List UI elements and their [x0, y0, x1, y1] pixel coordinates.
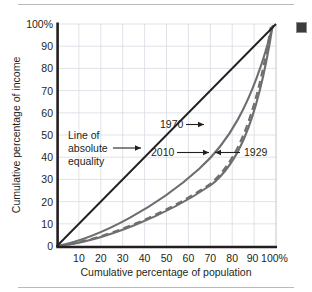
x-tick-60: 60 [183, 252, 195, 264]
y-tick-100: 100% [26, 18, 53, 30]
y-tick-80: 80 [41, 62, 53, 74]
annot-equality-line-3: equality [68, 155, 105, 167]
x-tick-20: 20 [95, 252, 107, 264]
x-tick-90: 90 [247, 252, 259, 264]
y-axis-title: Cumulative percentage of income [10, 57, 22, 214]
x-tick-80: 80 [226, 252, 238, 264]
x-tick-50: 50 [161, 252, 173, 264]
x-axis-title: Cumulative percentage of population [80, 266, 251, 278]
x-tick-100: 100% [261, 252, 288, 264]
y-tick-50: 50 [41, 129, 53, 141]
x-tick-40: 40 [139, 252, 151, 264]
chart-canvas: 100% 90 80 70 60 50 40 30 20 10 0 10 20 … [0, 0, 312, 292]
y-tick-30: 30 [41, 173, 53, 185]
y-tick-40: 40 [41, 151, 53, 163]
y-tick-20: 20 [41, 196, 53, 208]
y-axis-tick-labels: 100% 90 80 70 60 50 40 30 20 10 0 [26, 18, 53, 252]
y-tick-0: 0 [47, 240, 53, 252]
annot-1929-label: 1929 [244, 146, 268, 158]
annot-equality-line-1: Line of [68, 129, 100, 141]
y-tick-60: 60 [41, 107, 53, 119]
annot-1970-label: 1970 [160, 118, 184, 130]
y-tick-70: 70 [41, 85, 53, 97]
x-tick-70: 70 [204, 252, 216, 264]
x-axis-tick-labels: 10 20 30 40 50 60 70 80 90 100% [73, 252, 288, 264]
annot-equality-line-2: absolute [68, 142, 108, 154]
annot-2010-label: 2010 [151, 146, 175, 158]
y-tick-10: 10 [41, 218, 53, 230]
y-tick-90: 90 [41, 40, 53, 52]
lorenz-curve-figure: 100% 90 80 70 60 50 40 30 20 10 0 10 20 … [0, 0, 312, 292]
x-tick-10: 10 [73, 252, 85, 264]
x-tick-30: 30 [117, 252, 129, 264]
